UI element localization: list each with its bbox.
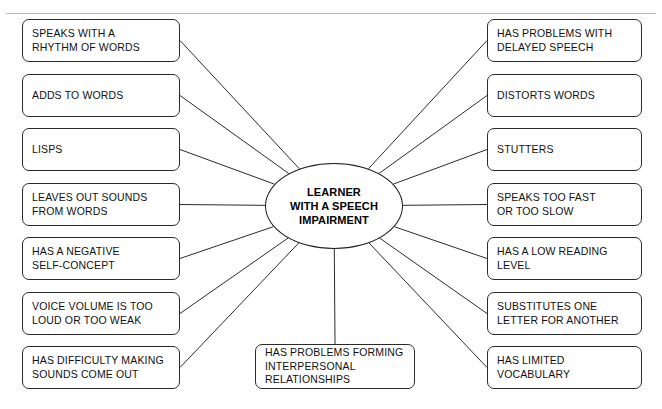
concept-node[interactable]: HAS A LOW READING LEVEL — [487, 237, 642, 280]
connector-line — [334, 249, 335, 344]
concept-node-label: HAS LIMITED VOCABULARY — [497, 354, 632, 381]
concept-node-label: LISPS — [32, 143, 170, 157]
concept-node-label: SUBSTITUTES ONE LETTER FOR ANOTHER — [497, 300, 632, 327]
top-rule — [6, 13, 656, 14]
concept-map-canvas: SPEAKS WITH A RHYTHM OF WORDSADDS TO WOR… — [0, 0, 662, 409]
concept-node[interactable]: SUBSTITUTES ONE LETTER FOR ANOTHER — [487, 292, 642, 335]
concept-node-label: ADDS TO WORDS — [32, 89, 170, 103]
concept-node[interactable]: LEAVES OUT SOUNDS FROM WORDS — [22, 183, 180, 226]
concept-node[interactable]: SPEAKS TOO FAST OR TOO SLOW — [487, 183, 642, 226]
concept-node-label: STUTTERS — [497, 143, 632, 157]
concept-node-label: SPEAKS WITH A RHYTHM OF WORDS — [32, 27, 170, 54]
concept-node[interactable]: HAS LIMITED VOCABULARY — [487, 346, 642, 389]
concept-node[interactable]: HAS DIFFICULTY MAKING SOUNDS COME OUT — [22, 346, 180, 389]
concept-node-label: HAS A LOW READING LEVEL — [497, 245, 632, 272]
connector-line — [180, 238, 288, 313]
concept-node-label: HAS A NEGATIVE SELF-CONCEPT — [32, 245, 170, 272]
connector-line — [180, 227, 273, 259]
concept-node[interactable]: VOICE VOLUME IS TOO LOUD OR TOO WEAK — [22, 292, 180, 335]
connector-line — [368, 41, 487, 169]
connector-line — [180, 205, 265, 206]
connector-line — [180, 150, 275, 185]
connector-line — [380, 238, 487, 313]
concept-node[interactable]: HAS PROBLEMS WITH DELAYED SPEECH — [487, 19, 642, 62]
concept-node-label: LEAVES OUT SOUNDS FROM WORDS — [32, 191, 170, 218]
concept-node-label: SPEAKS TOO FAST OR TOO SLOW — [497, 191, 632, 218]
concept-node[interactable]: SPEAKS WITH A RHYTHM OF WORDS — [22, 19, 180, 62]
connector-line — [180, 41, 299, 169]
hub-ellipse: LEARNER WITH A SPEECH IMPAIRMENT — [265, 163, 403, 249]
concept-node-label: DISTORTS WORDS — [497, 89, 632, 103]
concept-node-label: HAS PROBLEMS FORMING INTERPERSONAL RELAT… — [265, 346, 405, 387]
concept-node-label: HAS PROBLEMS WITH DELAYED SPEECH — [497, 27, 632, 54]
concept-node[interactable]: STUTTERS — [487, 128, 642, 171]
concept-node[interactable]: LISPS — [22, 128, 180, 171]
connector-line — [394, 227, 487, 259]
concept-node-label: HAS DIFFICULTY MAKING SOUNDS COME OUT — [32, 354, 170, 381]
concept-node[interactable]: DISTORTS WORDS — [487, 74, 642, 117]
concept-node[interactable]: ADDS TO WORDS — [22, 74, 180, 117]
hub-label: LEARNER WITH A SPEECH IMPAIRMENT — [290, 185, 378, 227]
concept-node[interactable]: HAS PROBLEMS FORMING INTERPERSONAL RELAT… — [255, 344, 415, 389]
connector-line — [180, 96, 289, 174]
connector-line — [379, 96, 487, 174]
connector-line — [393, 150, 487, 185]
concept-node[interactable]: HAS A NEGATIVE SELF-CONCEPT — [22, 237, 180, 280]
concept-node-label: VOICE VOLUME IS TOO LOUD OR TOO WEAK — [32, 300, 170, 327]
connector-line — [403, 205, 487, 206]
